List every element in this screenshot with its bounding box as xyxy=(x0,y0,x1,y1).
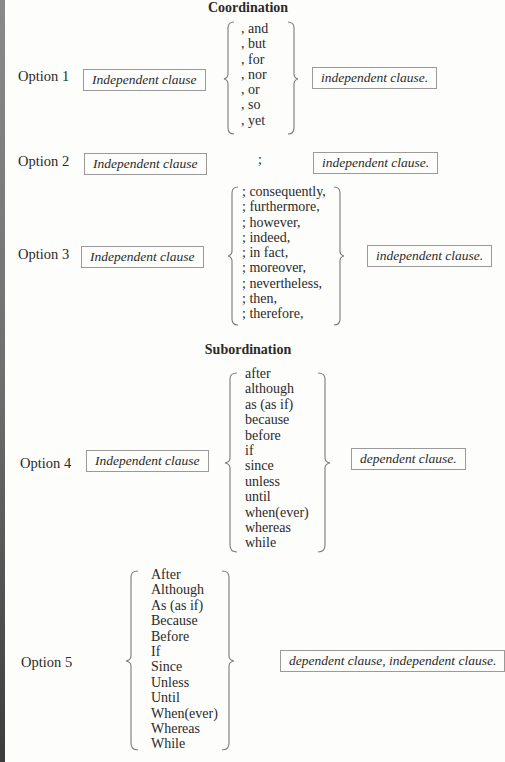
connector-item: ; furthermore, xyxy=(242,199,326,214)
option-5-right-brace xyxy=(220,569,236,753)
connector-item: because xyxy=(245,412,309,427)
connector-item: Whereas xyxy=(151,721,218,736)
option-5-subordinator-list: AfterAlthoughAs (as if)BecauseBeforeIfSi… xyxy=(151,567,218,752)
option-1-independent-clause-box-right: independent clause. xyxy=(312,67,437,89)
connector-item: , and xyxy=(241,21,268,36)
connector-item: when(ever) xyxy=(245,505,309,520)
connector-item: ; moreover, xyxy=(242,260,326,275)
connector-item: as (as if) xyxy=(245,397,309,412)
connector-item: after xyxy=(245,366,309,381)
subordination-heading: Subordination xyxy=(0,342,496,358)
page-edge-shadow xyxy=(0,0,5,762)
connector-item: Before xyxy=(151,629,218,644)
connector-item: , but xyxy=(241,36,268,51)
option-4-label: Option 4 xyxy=(20,455,71,472)
option-2-independent-clause-box-right: independent clause. xyxy=(313,152,438,174)
option-4-right-brace xyxy=(316,371,332,555)
option-4-subordinator-list: afteralthoughas (as if)becausebeforeifsi… xyxy=(245,366,309,551)
option-5-left-brace xyxy=(124,569,140,753)
option-4-left-brace xyxy=(223,371,239,555)
connector-item: while xyxy=(245,535,309,550)
connector-item: Since xyxy=(151,659,218,674)
connector-item: ; then, xyxy=(242,291,326,306)
option-2-independent-clause-box: Independent clause xyxy=(84,153,207,175)
option-1-independent-clause-box: Independent clause xyxy=(83,69,206,91)
option-4-independent-clause-box: Independent clause xyxy=(86,450,209,472)
connector-item: , yet xyxy=(241,113,268,128)
connector-item: , or xyxy=(241,82,268,97)
connector-item: , so xyxy=(241,97,268,112)
option-3-label: Option 3 xyxy=(18,246,69,263)
connector-item: Until xyxy=(151,690,218,705)
option-5-dependent-independent-clause-box: dependent clause, independent clause. xyxy=(280,650,505,672)
connector-item: ; nevertheless, xyxy=(242,276,326,291)
coordination-heading: Coordination xyxy=(0,0,496,16)
option-3-right-brace xyxy=(330,185,346,327)
option-3-transition-list: ; consequently,; furthermore,; however,;… xyxy=(242,184,326,322)
connector-item: before xyxy=(245,428,309,443)
connector-item: ; therefore, xyxy=(242,306,326,321)
connector-item: , nor xyxy=(241,67,268,82)
option-1-left-brace xyxy=(222,20,238,136)
option-4-dependent-clause-box: dependent clause. xyxy=(351,448,466,470)
connector-item: Because xyxy=(151,613,218,628)
connector-item: whereas xyxy=(245,520,309,535)
connector-item: As (as if) xyxy=(151,598,218,613)
connector-item: Although xyxy=(151,582,218,597)
connector-item: if xyxy=(245,443,309,458)
option-1-right-brace xyxy=(284,20,300,136)
connector-item: ; consequently, xyxy=(242,184,326,199)
option-3-left-brace xyxy=(226,185,242,327)
option-3-independent-clause-box-right: independent clause. xyxy=(367,245,492,267)
connector-item: While xyxy=(151,736,218,751)
connector-item: , for xyxy=(241,52,268,67)
option-1-label: Option 1 xyxy=(18,68,69,85)
connector-item: until xyxy=(245,489,309,504)
connector-item: since xyxy=(245,458,309,473)
option-3-independent-clause-box: Independent clause xyxy=(81,246,204,268)
connector-item: ; indeed, xyxy=(242,230,326,245)
connector-item: After xyxy=(151,567,218,582)
connector-item: When(ever) xyxy=(151,706,218,721)
option-2-label: Option 2 xyxy=(18,153,69,170)
connector-item: ; however, xyxy=(242,215,326,230)
connector-item: Unless xyxy=(151,675,218,690)
connector-item: ; in fact, xyxy=(242,245,326,260)
connector-item: although xyxy=(245,381,309,396)
connector-item: unless xyxy=(245,474,309,489)
option-1-conjunction-list: , and, but, for, nor, or, so, yet xyxy=(241,21,268,128)
connector-item: If xyxy=(151,644,218,659)
option-5-label: Option 5 xyxy=(21,654,72,671)
option-2-semicolon: ; xyxy=(258,152,262,168)
